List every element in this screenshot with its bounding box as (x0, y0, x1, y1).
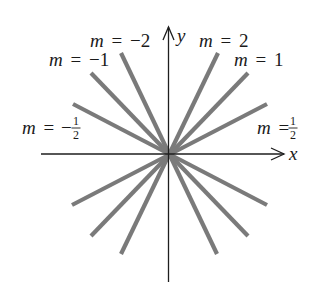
label-m-1: m = 1 (234, 49, 283, 70)
fraction-numerator: 1 (290, 114, 296, 128)
y-axis-label: y (175, 25, 186, 46)
fraction-denominator: 2 (73, 128, 79, 142)
slope-labels: m = 2 m = 1 m = 1 2 m = −2 m = (22, 30, 298, 142)
slope-diagram: x y m = 2 m = 1 m = 1 2 m = (0, 0, 320, 290)
label-m-neg-2: m = −2 (90, 30, 150, 51)
fraction-numerator: 1 (73, 114, 79, 128)
x-axis-label: x (288, 143, 298, 164)
svg-text:m = −: m = − (22, 117, 72, 138)
label-m-neg-half: m = − 1 2 (22, 114, 81, 142)
fraction-denominator: 2 (290, 128, 296, 142)
svg-text:m =: m = (257, 117, 289, 138)
label-m-2: m = 2 (199, 30, 248, 51)
label-m-neg-1: m = −1 (49, 49, 109, 70)
label-m-half: m = 1 2 (257, 114, 298, 142)
